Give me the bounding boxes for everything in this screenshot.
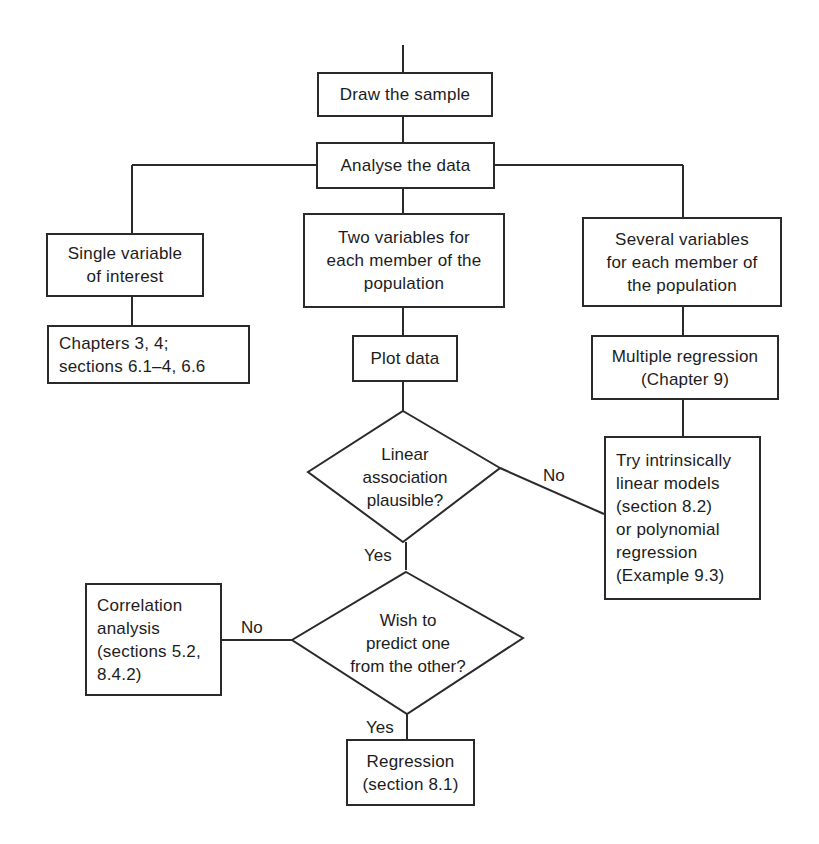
- node-chapters-reference: Chapters 3, 4; sections 6.1–4, 6.6: [47, 325, 250, 384]
- node-plot-data-label: Plot data: [371, 347, 440, 370]
- node-several-variables: Several variables for each member of the…: [582, 217, 782, 307]
- node-two-variables: Two variables for each member of the pop…: [303, 213, 505, 308]
- node-regression-label: Regression (section 8.1): [362, 750, 458, 796]
- edge-label-linear-no: No: [543, 466, 565, 486]
- node-correlation-analysis-label: Correlation analysis (sections 5.2, 8.4.…: [97, 594, 201, 686]
- node-single-variable: Single variable of interest: [46, 233, 204, 297]
- node-try-models-label: Try intrinsically linear models (section…: [616, 449, 731, 587]
- node-correlation-analysis: Correlation analysis (sections 5.2, 8.4.…: [85, 583, 222, 696]
- node-two-variables-label: Two variables for each member of the pop…: [327, 226, 482, 295]
- node-analyse-data-label: Analyse the data: [341, 154, 471, 177]
- node-analyse-data: Analyse the data: [316, 142, 495, 189]
- node-regression: Regression (section 8.1): [346, 739, 475, 806]
- node-plot-data: Plot data: [352, 335, 458, 382]
- edge-label-predict-yes: Yes: [366, 718, 394, 738]
- node-chapters-reference-label: Chapters 3, 4; sections 6.1–4, 6.6: [59, 332, 206, 378]
- node-single-variable-label: Single variable of interest: [68, 242, 183, 288]
- node-try-models: Try intrinsically linear models (section…: [604, 436, 761, 600]
- decision-wish-predict-label: Wish to predict one from the other?: [330, 598, 486, 688]
- decision-wish-predict-text: Wish to predict one from the other?: [350, 609, 465, 678]
- decision-linear-association-label: Linear association plausible?: [340, 432, 470, 522]
- edge-label-linear-yes: Yes: [364, 546, 392, 566]
- edge-label-predict-no: No: [241, 618, 263, 638]
- node-multiple-regression-label: Multiple regression (Chapter 9): [612, 345, 758, 391]
- node-several-variables-label: Several variables for each member of the…: [607, 228, 758, 297]
- node-multiple-regression: Multiple regression (Chapter 9): [591, 335, 779, 400]
- node-draw-sample-label: Draw the sample: [340, 83, 471, 106]
- flowchart-connectors: [0, 0, 819, 844]
- decision-linear-association-text: Linear association plausible?: [362, 443, 447, 512]
- node-draw-sample: Draw the sample: [317, 72, 493, 117]
